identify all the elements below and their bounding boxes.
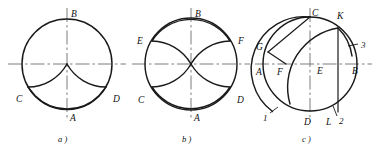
figure-c-chord-g-f <box>268 52 286 64</box>
figure-a-label-a: A <box>69 113 76 123</box>
figure-a-label-d: D <box>112 94 120 104</box>
figure-c-group: C K G A F E B D L 1 2 3 c ) <box>251 8 372 144</box>
figure-c-caption: c ) <box>302 134 311 144</box>
figure-c-label-c: C <box>312 8 319 18</box>
figure-c-label-k: K <box>336 11 344 21</box>
figure-c-arc-2 <box>288 28 338 104</box>
figure-c-label-d: D <box>303 117 311 127</box>
figure-c-label-b: B <box>352 66 358 76</box>
geometric-construction-figure: B A C D a ) B A E <box>0 0 378 150</box>
figure-c-label-l: L <box>325 117 331 127</box>
figure-a-label-b: B <box>71 9 77 19</box>
figure-b-arc-c-o <box>152 64 191 87</box>
figure-a-group: B A C D a ) <box>8 8 126 144</box>
figure-b-group: B A E F C D b ) <box>132 8 250 144</box>
figure-a-caption: a ) <box>58 134 67 144</box>
figure-b-label-e: E <box>136 36 143 46</box>
figure-c-label-a: A <box>255 67 262 77</box>
figure-c-label-f: F <box>276 67 283 77</box>
figure-b-label-d: D <box>236 95 244 105</box>
figure-b-caption: b ) <box>182 134 191 144</box>
figure-b-label-b: B <box>195 9 201 19</box>
figure-b-label-c: C <box>138 95 145 105</box>
figure-b-arc-o-d <box>191 64 230 87</box>
figure-a-arc-o-d <box>67 64 106 87</box>
figure-c-label-2: 2 <box>339 116 344 126</box>
figure-c-label-e: E <box>316 66 323 76</box>
figure-c-label-g: G <box>256 42 263 52</box>
figure-c-label-3: 3 <box>360 40 366 50</box>
figure-sheet: B A C D a ) B A E <box>0 0 378 150</box>
figure-a-arc-c-o <box>28 64 67 87</box>
figure-c-tick-2 <box>333 106 337 116</box>
figure-b-label-f: F <box>237 36 244 46</box>
figure-b-arc-e-o <box>152 41 191 64</box>
figure-c-label-1: 1 <box>263 113 268 123</box>
figure-b-label-a: A <box>193 113 200 123</box>
figure-b-arc-o-f <box>191 41 230 64</box>
figure-a-label-c: C <box>16 94 23 104</box>
